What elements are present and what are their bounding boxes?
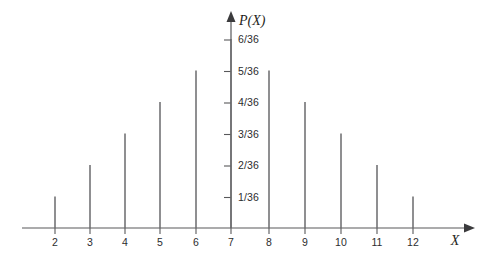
y-tick-label-4: 4/36 [238, 96, 259, 108]
y-axis-ticks [224, 40, 231, 198]
y-tick-label-3: 3/36 [238, 128, 259, 140]
x-tick-label-9: 9 [302, 236, 308, 248]
x-tick-label-4: 4 [122, 236, 128, 248]
y-axis-tick-labels: 1/36 2/36 3/36 4/36 5/36 6/36 [238, 33, 259, 203]
y-tick-label-2: 2/36 [238, 159, 259, 171]
y-tick-label-6: 6/36 [238, 33, 259, 45]
x-tick-label-6: 6 [193, 236, 199, 248]
x-tick-label-10: 10 [335, 236, 347, 248]
y-axis-arrow-icon [227, 11, 236, 22]
probability-distribution-chart: 1/36 2/36 3/36 4/36 5/36 6/36 2 3 4 5 [0, 0, 492, 257]
x-axis-title: X [450, 233, 460, 248]
x-tick-label-8: 8 [266, 236, 272, 248]
x-tick-label-12: 12 [407, 236, 419, 248]
x-axis-arrow-icon [464, 224, 475, 233]
x-axis-tick-labels: 2 3 4 5 6 7 8 9 10 11 12 [52, 236, 419, 248]
y-tick-label-1: 1/36 [238, 191, 259, 203]
y-tick-label-5: 5/36 [238, 65, 259, 77]
x-tick-label-2: 2 [52, 236, 58, 248]
data-stems [55, 39, 413, 228]
x-tick-label-3: 3 [87, 236, 93, 248]
x-tick-label-7: 7 [228, 236, 234, 248]
y-axis-title: P(X) [238, 13, 266, 29]
x-tick-label-11: 11 [371, 236, 382, 248]
x-tick-label-5: 5 [157, 236, 163, 248]
chart-canvas: 1/36 2/36 3/36 4/36 5/36 6/36 2 3 4 5 [0, 0, 492, 257]
x-axis-ticks [55, 228, 413, 234]
